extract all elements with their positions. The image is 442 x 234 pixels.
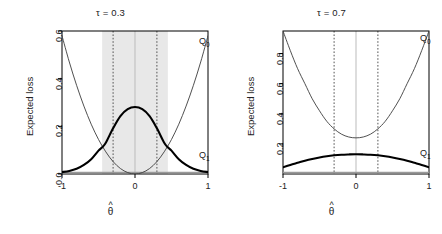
- figure-root: τ = 0.3 Expected loss 0.0 0.2 0.4 0.6 -1…: [0, 0, 442, 234]
- plot-area-right: [221, 0, 442, 234]
- panel-tau-0-3: τ = 0.3 Expected loss 0.0 0.2 0.4 0.6 -1…: [0, 0, 221, 234]
- panel-tau-0-7: τ = 0.7 Expected loss 0.2 0.4 0.6 0.8 -1…: [221, 0, 442, 234]
- plot-area-left: [0, 0, 221, 234]
